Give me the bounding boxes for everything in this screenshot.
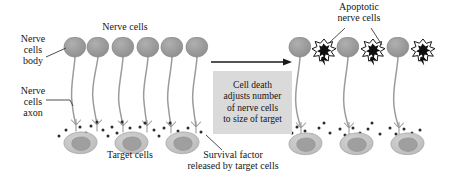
nerve-cell	[161, 37, 183, 133]
axon	[168, 57, 172, 127]
axon	[119, 57, 123, 126]
cell-death-callout-text: Cell death adjusts number of nerve cells…	[223, 80, 282, 125]
target-cell	[391, 133, 424, 155]
target-cell-row	[289, 133, 424, 155]
nerve-cell	[387, 37, 409, 134]
label-apoptotic-nerve-cells: Apoptotic nerve cells	[316, 2, 402, 24]
nerve-cell	[186, 37, 208, 133]
apoptotic-nerve-cell	[361, 39, 385, 65]
axon	[344, 57, 349, 128]
axon	[296, 57, 301, 128]
right-panel-nerve-cells	[289, 37, 435, 154]
cell-death-callout-box: Cell death adjusts number of nerve cells…	[213, 71, 292, 134]
label-nerve-cells-axon: Nerve cells axon	[4, 86, 62, 118]
nerve-cell	[289, 37, 311, 134]
axon	[193, 57, 197, 127]
axon	[93, 57, 98, 125]
axon	[71, 57, 76, 125]
process-arrow	[211, 59, 292, 66]
apoptotic-nerve-cell	[312, 39, 336, 65]
target-cell	[340, 133, 373, 155]
nerve-cell	[64, 37, 86, 131]
label-nerve-cells-body: Nerve cells body	[4, 34, 62, 66]
apoptotic-nerve-cell	[411, 39, 435, 65]
arrow-head	[283, 59, 292, 66]
label-nerve-cells: Nerve cells	[86, 22, 164, 33]
axon	[394, 57, 399, 128]
nerve-cell	[87, 37, 109, 131]
axon	[144, 57, 148, 126]
target-cell	[64, 132, 97, 154]
nerve-cell	[337, 37, 359, 134]
leader-survival-factor	[206, 135, 222, 150]
neurotrophic-factor-diagram: Nerve cells body Nerve cells axon Nerve …	[0, 0, 453, 181]
label-survival-factor: Survival factor released by target cells	[168, 150, 298, 172]
label-target-cells: Target cells	[94, 150, 166, 161]
nerve-cell	[137, 37, 159, 132]
left-panel-nerve-cells	[58, 37, 208, 153]
nerve-cell	[112, 37, 134, 132]
apoptotic-cells	[312, 39, 435, 65]
